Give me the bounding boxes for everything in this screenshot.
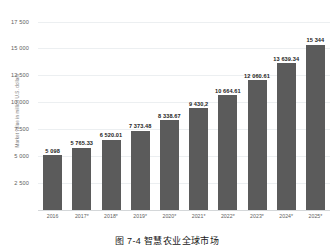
y-axis-tick-label: 15 000 <box>0 45 29 51</box>
plot-area: 2 5005 0007 50010 00012 50015 00017 500 … <box>38 14 330 210</box>
x-axis-tick-label: 2025* <box>301 213 330 219</box>
x-axis-tick-label: 2022* <box>213 213 242 219</box>
x-axis-tick-label: 2017* <box>67 213 96 219</box>
y-axis-tick-label: 2 500 <box>0 180 29 186</box>
bar-value-label: 15 344 <box>307 37 325 43</box>
bar-slot: 7 373.48 <box>126 14 155 210</box>
bar[interactable] <box>102 140 121 210</box>
bar[interactable] <box>306 45 325 210</box>
x-axis-tick-label: 2024* <box>272 213 301 219</box>
y-axis-tick-label: 12 500 <box>0 72 29 78</box>
bar-slot: 5 765.33 <box>67 14 96 210</box>
bar[interactable] <box>160 120 179 210</box>
chart-figure: Market value in million U.S. dollars 2 5… <box>0 0 334 251</box>
bar-value-label: 10 664.61 <box>215 88 241 94</box>
y-axis-title: Market value in million U.S. dollars <box>15 36 20 186</box>
bar-slot: 8 338.67 <box>155 14 184 210</box>
x-axis-tick-label: 2016 <box>38 213 67 219</box>
bar[interactable] <box>248 80 267 210</box>
bar-value-label: 6 520.01 <box>100 132 123 138</box>
bar-slot: 6 520.01 <box>96 14 125 210</box>
x-axis-tick-label: 2023* <box>242 213 271 219</box>
x-axis-tick-labels: 20162017*2018*2019*2020*2021*2022*2023*2… <box>38 213 330 219</box>
x-axis-tick-label: 2020* <box>155 213 184 219</box>
bar[interactable] <box>131 131 150 210</box>
bar-value-label: 13 639.34 <box>273 56 299 62</box>
bar-slot: 15 344 <box>301 14 330 210</box>
y-axis-tick-label: 5 000 <box>0 153 29 159</box>
x-axis-tick-label: 2019* <box>126 213 155 219</box>
bar-value-label: 8 338.67 <box>158 113 181 119</box>
bar[interactable] <box>72 148 91 210</box>
x-axis-tick-label: 2018* <box>96 213 125 219</box>
bar[interactable] <box>43 155 62 210</box>
figure-caption: 图 7-4 智慧农业全球市场 <box>0 234 334 247</box>
bar[interactable] <box>189 108 208 210</box>
bar-value-label: 5 098 <box>45 148 60 154</box>
bar-value-label: 5 765.33 <box>71 140 94 146</box>
bar-value-label: 9 430,2 <box>189 101 208 107</box>
bar-slot: 12 060.61 <box>242 14 271 210</box>
bar[interactable] <box>218 95 237 210</box>
bar[interactable] <box>277 63 296 210</box>
y-axis-tick-label: 17 500 <box>0 19 29 25</box>
bar-value-label: 7 373.48 <box>129 123 152 129</box>
y-axis-tick-label: 10 000 <box>0 99 29 105</box>
y-axis-tick-label: 7 500 <box>0 126 29 132</box>
bar-slot: 13 639.34 <box>272 14 301 210</box>
bar-series: 5 0985 765.336 520.017 373.488 338.679 4… <box>38 14 330 210</box>
x-axis-line <box>38 210 330 211</box>
bar-slot: 9 430,2 <box>184 14 213 210</box>
bar-slot: 10 664.61 <box>213 14 242 210</box>
x-axis-tick-label: 2021* <box>184 213 213 219</box>
bar-value-label: 12 060.61 <box>244 73 270 79</box>
bar-slot: 5 098 <box>38 14 67 210</box>
